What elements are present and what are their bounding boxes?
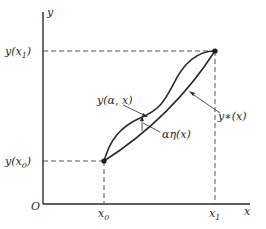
variation-diagram: y x O x0 x1 y(x1) y(x0) y(α, x) αη(x) y∗… xyxy=(0,0,266,229)
start-point xyxy=(101,158,106,163)
y-x1-label: y(x1) xyxy=(4,45,31,60)
extremal-curve-label: y∗(x) xyxy=(217,110,246,123)
x1-label: x1 xyxy=(209,207,220,222)
varied-curve-label: y(α, x) xyxy=(96,94,132,107)
y-axis-label: y xyxy=(46,6,54,19)
extremal-curve-leader xyxy=(191,93,220,113)
origin-label: O xyxy=(31,200,40,213)
end-point xyxy=(212,48,217,53)
variation-label: αη(x) xyxy=(162,128,191,141)
x-axis-label: x xyxy=(244,205,251,218)
x0-label: x0 xyxy=(98,207,109,222)
y-x0-label: y(x0) xyxy=(4,155,31,170)
